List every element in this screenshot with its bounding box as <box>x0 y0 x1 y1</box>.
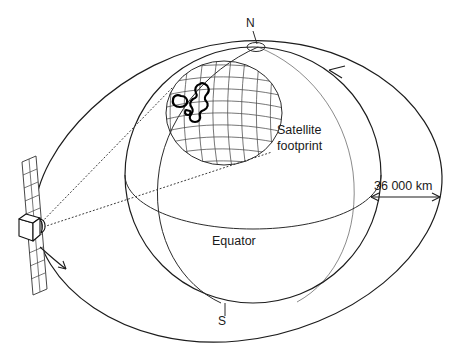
north-pole-label: N <box>246 16 255 30</box>
diagram-canvas: N S Equator Satellite footprint 36 000 k… <box>0 0 468 356</box>
meridian-line-secondary <box>258 47 354 302</box>
altitude-label: 36 000 km <box>374 179 432 193</box>
sight-lines <box>37 88 272 229</box>
footprint-label-line1: Satellite <box>277 123 322 137</box>
orbit-direction-arrowhead <box>329 66 345 78</box>
satellite-body <box>19 214 40 241</box>
equator-label: Equator <box>212 234 256 248</box>
south-pole-label: S <box>218 314 226 328</box>
earth-globe <box>125 47 381 303</box>
altitude-dimension-arrow <box>371 193 440 201</box>
equator-line <box>125 128 381 229</box>
footprint-label-line2: footprint <box>277 139 323 153</box>
satellite-orbit-diagram: N S Equator Satellite footprint 36 000 k… <box>0 0 468 356</box>
